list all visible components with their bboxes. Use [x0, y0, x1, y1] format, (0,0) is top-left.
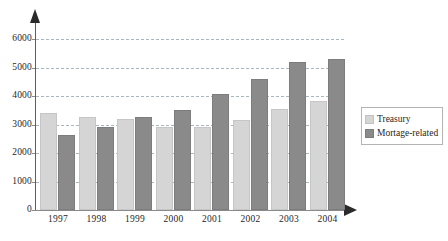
bar-group-1999: [117, 30, 153, 210]
y-axis-tick-label: 0: [2, 205, 32, 215]
bar-treasury-1997[interactable]: [40, 113, 57, 210]
y-axis-tick-label: 2000: [2, 148, 32, 158]
y-axis-tick-label: 1000: [2, 177, 32, 187]
bar-mortgage-related-1999[interactable]: [135, 117, 152, 210]
bar-treasury-2002[interactable]: [233, 120, 250, 210]
grouped-bar-chart: 0100020003000400050006000 19971998199920…: [0, 0, 448, 241]
bar-group-2003: [271, 30, 307, 210]
legend-item-mortgage-related[interactable]: Mortage-related: [365, 126, 438, 140]
bar-mortgage-related-2001[interactable]: [212, 94, 229, 210]
y-axis-tick-label: 6000: [2, 34, 32, 44]
bar-group-1997: [40, 30, 76, 210]
bar-treasury-2000[interactable]: [156, 127, 173, 211]
y-axis-tick-label: 3000: [2, 120, 32, 130]
legend-label-treasury: Treasury: [377, 114, 410, 124]
bar-group-2001: [194, 30, 230, 210]
y-axis-tick-label: 5000: [2, 63, 32, 73]
bar-treasury-1999[interactable]: [117, 119, 134, 210]
bar-group-2000: [156, 30, 192, 210]
bars-layer: [36, 0, 344, 241]
x-axis-tick-label-2004: 2004: [305, 214, 351, 225]
bar-group-1998: [79, 30, 115, 210]
bar-treasury-1998[interactable]: [79, 117, 96, 210]
treasury-swatch-icon: [365, 115, 374, 124]
bar-mortgage-related-1998[interactable]: [97, 127, 114, 210]
bar-treasury-2004[interactable]: [310, 101, 327, 210]
legend-item-treasury[interactable]: Treasury: [365, 112, 438, 126]
bar-mortgage-related-1997[interactable]: [58, 135, 75, 210]
chart-legend: Treasury Mortage-related: [361, 107, 443, 145]
bar-treasury-2001[interactable]: [194, 127, 211, 211]
bar-mortgage-related-2000[interactable]: [174, 110, 191, 210]
bar-treasury-2003[interactable]: [271, 109, 288, 210]
bar-mortgage-related-2002[interactable]: [251, 79, 268, 210]
legend-label-mortgage-related: Mortage-related: [377, 128, 438, 138]
bar-group-2004: [310, 30, 346, 210]
mortgage-swatch-icon: [365, 129, 374, 138]
y-axis-tick-label: 4000: [2, 91, 32, 101]
bar-group-2002: [233, 30, 269, 210]
bar-mortgage-related-2004[interactable]: [328, 59, 345, 210]
bar-mortgage-related-2003[interactable]: [289, 62, 306, 210]
